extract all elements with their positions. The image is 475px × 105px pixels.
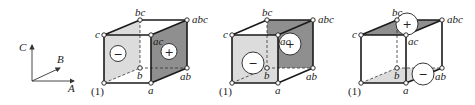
vertex-label-a: a xyxy=(148,84,154,96)
factorial-cube-diagram: C B A −+(1)ababcacbcabc−+(1)ababcacbcabc… xyxy=(0,0,475,105)
vertex-bc xyxy=(265,18,269,22)
axis-a-label: A xyxy=(67,82,75,94)
minus-sign-marker: − xyxy=(412,63,434,85)
axis-c-label: C xyxy=(19,41,27,53)
vertex-label-ac: ac xyxy=(408,35,419,47)
cube-main-effect-c: +−(1)ababcacbcabc xyxy=(348,6,463,98)
vertex-label-a: a xyxy=(275,84,281,96)
vertex-bc xyxy=(395,18,399,22)
sign-symbol: + xyxy=(164,46,173,59)
vertex-label-one: (1) xyxy=(348,85,361,98)
vertex-label-ac: ac xyxy=(280,35,291,47)
sign-symbol: + xyxy=(402,18,411,31)
cube-main-effect-b: −+(1)ababcacbcabc xyxy=(219,6,334,98)
plus-sign-marker: + xyxy=(161,44,177,60)
vertex-label-ac: ac xyxy=(153,35,164,47)
cube-edge xyxy=(232,20,267,35)
sign-symbol: − xyxy=(248,57,257,70)
vertex-label-bc: bc xyxy=(262,6,273,18)
vertex-label-a: a xyxy=(403,84,409,96)
vertex-label-b: b xyxy=(137,69,143,81)
minus-sign-marker: − xyxy=(242,52,264,74)
vertex-c xyxy=(230,33,234,37)
vertex-label-one: (1) xyxy=(219,85,232,98)
vertex-abc xyxy=(440,18,444,22)
vertex-label-bc: bc xyxy=(392,6,403,18)
vertex-label-abc: abc xyxy=(447,13,463,25)
vertex-label-ab: ab xyxy=(435,70,447,82)
vertex-abc xyxy=(311,18,315,22)
vertex-label-c: c xyxy=(352,28,357,40)
axis-b-arrow xyxy=(32,68,60,81)
vertex-label-c: c xyxy=(95,28,100,40)
minus-sign-marker: − xyxy=(110,46,126,62)
vertex-label-ab: ab xyxy=(306,70,318,82)
axis-legend: C B A xyxy=(19,41,75,94)
vertex-abc xyxy=(185,18,189,22)
vertex-label-ab: ab xyxy=(180,70,192,82)
vertex-label-abc: abc xyxy=(192,13,208,25)
vertex-bc xyxy=(138,18,142,22)
sign-symbol: − xyxy=(418,68,427,81)
vertex-label-one: (1) xyxy=(91,85,104,98)
cubes: −+(1)ababcacbcabc−+(1)ababcacbcabc+−(1)a… xyxy=(91,6,463,98)
axis-b-label: B xyxy=(57,53,64,65)
vertex-c xyxy=(359,33,363,37)
cube-main-effect-a: −+(1)ababcacbcabc xyxy=(91,6,208,98)
vertex-label-b: b xyxy=(394,69,400,81)
vertex-label-bc: bc xyxy=(135,6,146,18)
sign-symbol: − xyxy=(113,48,122,61)
vertex-c xyxy=(102,33,106,37)
vertex-label-c: c xyxy=(223,28,228,40)
vertex-label-abc: abc xyxy=(318,13,334,25)
vertex-label-b: b xyxy=(264,69,270,81)
